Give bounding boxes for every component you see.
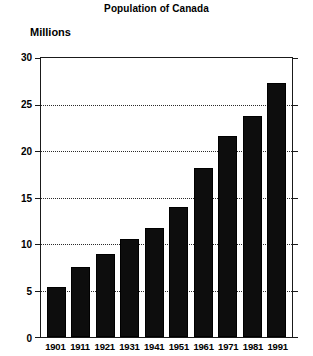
bar-slot [216, 58, 241, 337]
bar [47, 287, 66, 337]
x-axis-tick-label: 1941 [142, 341, 167, 352]
chart-title: Population of Canada [0, 3, 313, 14]
bar [96, 254, 115, 337]
bar-slot [167, 58, 192, 337]
y-axis-tick-mark [292, 198, 298, 199]
bar-slot [44, 58, 69, 337]
y-axis-tick-label: 10 [4, 239, 32, 250]
y-axis-tick-label: 5 [4, 286, 32, 297]
bar-slot [265, 58, 290, 337]
y-axis-tick-label: 20 [4, 145, 32, 156]
y-axis-tick-mark [292, 58, 298, 59]
y-axis-tick-mark [292, 105, 298, 106]
bar-slot [93, 58, 118, 337]
x-axis-tick-labels: 1901191119211931194119511961197119811991 [40, 341, 293, 352]
y-axis-tick-mark [292, 244, 298, 245]
bar [120, 239, 139, 337]
bar-slot [118, 58, 143, 337]
y-axis-tick-mark [35, 337, 41, 338]
y-axis-tick-label: 30 [4, 52, 32, 63]
bar [218, 136, 237, 337]
x-axis-tick-label: 1911 [68, 341, 93, 352]
y-axis-unit-label: Millions [30, 26, 71, 38]
bar [194, 168, 213, 337]
bar [243, 116, 262, 337]
bar-slot [142, 58, 167, 337]
x-axis-tick-label: 1981 [241, 341, 266, 352]
bar-slot [240, 58, 265, 337]
x-axis-tick-label: 1991 [265, 341, 290, 352]
y-axis-tick-label: 15 [4, 192, 32, 203]
y-axis-tick-mark [292, 291, 298, 292]
y-axis-tick-mark [292, 337, 298, 338]
bar [169, 207, 188, 337]
bar [145, 228, 164, 337]
x-axis-tick-label: 1921 [92, 341, 117, 352]
y-axis-tick-label: 0 [4, 333, 32, 344]
x-axis-tick-label: 1951 [167, 341, 192, 352]
x-axis-tick-label: 1931 [117, 341, 142, 352]
x-axis-tick-label: 1961 [191, 341, 216, 352]
x-axis-tick-label: 1971 [216, 341, 241, 352]
bar-slot [69, 58, 94, 337]
x-axis-tick-label: 1901 [43, 341, 68, 352]
plot-area [40, 57, 293, 338]
bar-slot [191, 58, 216, 337]
y-axis-tick-mark [292, 151, 298, 152]
bars-layer [41, 58, 292, 337]
bar [267, 83, 286, 337]
population-bar-chart: Population of Canada Millions 3025201510… [0, 0, 313, 356]
y-axis-tick-label: 25 [4, 98, 32, 109]
bar [71, 267, 90, 337]
